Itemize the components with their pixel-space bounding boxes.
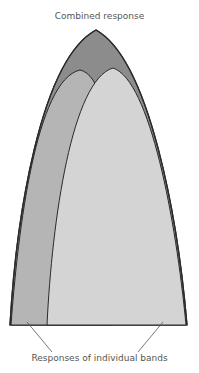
leader-line-right xyxy=(138,322,163,352)
leader-line-left xyxy=(27,322,52,352)
response-diagram xyxy=(0,0,199,373)
combined-response-label: Combined response xyxy=(0,11,199,21)
individual-bands-label: Responses of individual bands xyxy=(0,353,199,363)
